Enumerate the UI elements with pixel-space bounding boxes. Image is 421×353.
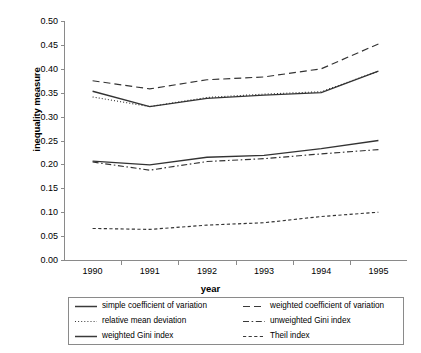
series-line [93,44,379,89]
legend-label: unweighted Gini index [270,316,351,326]
x-tick-label: 1991 [121,266,178,276]
chart-legend: simple coefficient of variationweighted … [68,297,404,345]
legend-label: simple coefficient of variation [102,301,207,311]
legend-entry[interactable]: simple coefficient of variation [69,298,237,313]
legend-line-swatch [75,331,97,341]
x-tick-label: 1994 [293,266,350,276]
axis-ticks [61,22,351,265]
legend-line-swatch [243,316,265,326]
legend-entry[interactable]: unweighted Gini index [237,313,405,328]
legend-line-swatch [243,331,265,341]
series-line [93,71,379,106]
data-series-group [93,44,379,229]
legend-label: weighted coefficient of variation [270,301,384,311]
x-tick-label: 1993 [236,266,293,276]
legend-entry[interactable]: relative mean deviation [69,313,237,328]
series-line [93,212,379,229]
legend-entry[interactable]: weighted coefficient of variation [237,298,405,313]
x-tick-label: 1992 [178,266,235,276]
legend-label: relative mean deviation [102,316,186,326]
legend-label: Theil index [270,331,310,341]
axis-lines [64,21,407,261]
legend-line-swatch [243,301,265,311]
legend-entry[interactable]: Theil index [237,329,405,344]
series-line [93,71,379,106]
x-axis-title: year [0,283,421,294]
legend-entry[interactable]: weighted Gini index [69,329,237,344]
legend-line-swatch [75,301,97,311]
legend-label: weighted Gini index [102,331,173,341]
legend-line-swatch [75,316,97,326]
series-line [93,150,379,171]
x-tick-label: 1990 [64,266,121,276]
inequality-measure-line-chart: inequality measure 0.500.450.400.350.300… [0,0,421,353]
x-tick-label: 1995 [350,266,407,276]
